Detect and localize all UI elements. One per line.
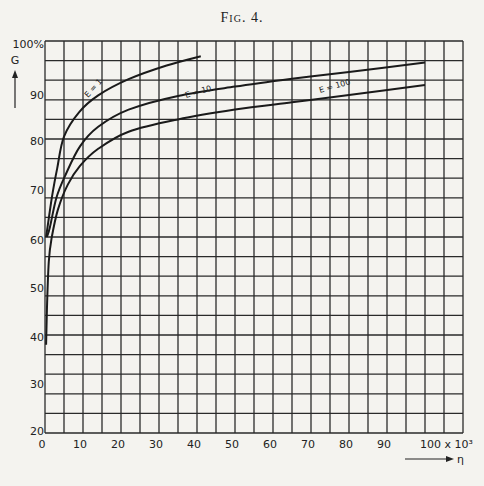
x-tick-label: 70 <box>301 438 315 451</box>
x-tick-label: 10 <box>73 438 87 451</box>
x-tick-label: 60 <box>263 438 277 451</box>
x-tick-label: 30 <box>149 438 163 451</box>
y-axis-label: G <box>11 54 20 67</box>
y-tick-label: 90 <box>30 89 44 102</box>
y-tick-label: 50 <box>30 282 44 295</box>
x-tick-label: 40 <box>187 438 201 451</box>
y-tick-label: 20 <box>30 425 44 438</box>
x-tick-label: 50 <box>225 438 239 451</box>
y-tick-label: 60 <box>30 234 44 247</box>
x-tick-label: 0 <box>39 438 46 451</box>
x-tick-label: 100 x 10³ <box>420 438 473 451</box>
arrow-right-icon <box>446 456 454 462</box>
line-chart: 2030405060708090100% 0102030405060708090… <box>0 0 484 486</box>
curve-label: E = 10 <box>184 84 212 100</box>
y-tick-label: 70 <box>30 184 44 197</box>
x-tick-label: 90 <box>377 438 391 451</box>
arrow-up-icon <box>12 70 18 78</box>
y-tick-label: 80 <box>30 135 44 148</box>
axis-labels: Gη <box>11 54 464 466</box>
y-tick-label: 40 <box>30 331 44 344</box>
x-axis-label: η <box>457 453 464 466</box>
x-axis-ticks: 0102030405060708090100 x 10³ <box>39 438 473 451</box>
y-tick-label: 30 <box>30 378 44 391</box>
y-tick-label: 100% <box>13 38 44 51</box>
x-tick-label: 80 <box>339 438 353 451</box>
grid <box>45 41 463 433</box>
y-axis-ticks: 2030405060708090100% <box>13 38 44 438</box>
x-tick-label: 20 <box>111 438 125 451</box>
